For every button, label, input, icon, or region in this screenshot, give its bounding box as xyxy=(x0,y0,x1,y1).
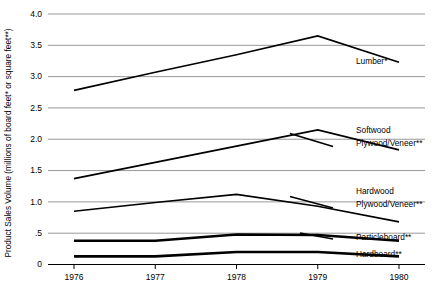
label-leader-lines xyxy=(290,134,333,240)
series-line-hardwood-plywood xyxy=(74,194,399,222)
x-axis-tick-label: 1980 xyxy=(390,272,409,282)
series-label-softwood-plywood: Plywood/Veneer** xyxy=(356,138,423,148)
x-axis-tick-label: 1977 xyxy=(146,272,165,282)
y-axis-tick-label: 0 xyxy=(37,259,42,269)
series-labels: Lumber*SoftwoodPlywood/Veneer**HardwoodP… xyxy=(356,56,423,259)
y-axis-tick-label: 3.5 xyxy=(30,40,42,50)
x-axis-tick-labels: 19761977197819791980 xyxy=(65,272,409,282)
x-axis-tick-marks xyxy=(74,265,399,270)
y-axis-tick-label: 1.0 xyxy=(30,197,42,207)
y-axis-tick-labels: 4.03.53.02.52.01.51.0.50 xyxy=(30,9,42,270)
y-axis-tick-label: .5 xyxy=(35,228,42,238)
series-label-hardwood-plywood: Plywood/Veneer** xyxy=(356,199,423,209)
x-axis-tick-label: 1978 xyxy=(227,272,246,282)
series-line-softwood-plywood xyxy=(74,130,399,179)
x-axis-tick-label: 1979 xyxy=(308,272,327,282)
series-label-softwood-plywood: Softwood xyxy=(356,125,391,135)
series-line-hardboard xyxy=(74,252,399,256)
y-axis-tick-label: 3.0 xyxy=(30,71,42,81)
y-axis-tick-label: 4.0 xyxy=(30,9,42,19)
y-axis-tick-label: 2.0 xyxy=(30,134,42,144)
data-series-lines xyxy=(74,36,399,256)
line-chart: 4.03.53.02.52.01.51.0.50 197619771978197… xyxy=(0,0,437,287)
y-axis-title: Product Sales Volume (millions of board … xyxy=(3,28,13,257)
x-axis-tick-label: 1976 xyxy=(65,272,84,282)
y-axis-tick-label: 2.5 xyxy=(30,103,42,113)
series-label-hardboard: Hardboard** xyxy=(356,249,402,259)
chart-canvas: 4.03.53.02.52.01.51.0.50 197619771978197… xyxy=(0,0,437,287)
series-label-hardwood-plywood: Hardwood xyxy=(356,186,394,196)
series-label-lumber: Lumber* xyxy=(356,56,388,66)
series-label-particleboard: Particleboard** xyxy=(356,232,412,242)
series-line-lumber xyxy=(74,36,399,90)
y-axis-tick-label: 1.5 xyxy=(30,165,42,175)
leader-line-softwood-plywood xyxy=(290,134,333,147)
series-line-particleboard xyxy=(74,234,399,240)
